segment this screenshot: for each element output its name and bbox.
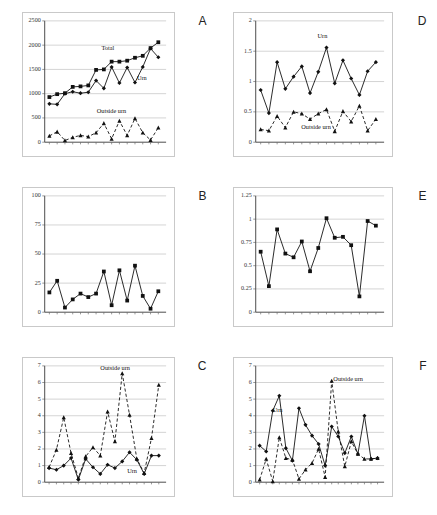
data-point-outside-urn-% — [86, 295, 90, 299]
data-point-ratio — [333, 236, 337, 240]
data-point-total — [118, 60, 122, 64]
data-point-outside-urn-% — [125, 299, 129, 303]
series-line-outside-urn — [260, 381, 378, 482]
series-annotation: Urn — [127, 467, 138, 474]
data-point-ratio — [259, 250, 263, 254]
panel-a-plot-area: 05001000150020002500TotalUrnOutside urn — [22, 12, 175, 157]
figure-six-panel-line-charts: 05001000150020002500TotalUrnOutside urn … — [0, 0, 437, 515]
panel-a: 05001000150020002500TotalUrnOutside urn … — [0, 0, 215, 175]
data-point-total — [156, 40, 160, 44]
data-point-total — [141, 54, 145, 58]
data-point-ratio — [374, 224, 378, 228]
y-tick-label: 6 — [249, 379, 252, 385]
y-tick-label: 1500 — [29, 66, 41, 72]
y-tick-label: 1000 — [29, 90, 41, 96]
data-point-urn — [362, 414, 366, 418]
y-tick-label: 0 — [249, 309, 252, 315]
data-point-urn — [323, 464, 327, 468]
data-point-outside-urn — [323, 475, 327, 479]
panel-c-plot-area: 01234567Outside urnUrn — [22, 357, 175, 497]
data-point-outside-urn-% — [63, 306, 67, 310]
data-point-outside-urn — [127, 413, 131, 417]
y-tick-label: 75 — [35, 221, 41, 227]
data-point-ratio — [283, 252, 287, 256]
panel-c-chart: 01234567Outside urnUrn — [23, 358, 174, 496]
series-annotation: Outside urn — [97, 107, 127, 114]
data-point-outside-urn — [258, 478, 262, 482]
panel-c-letter: C — [198, 359, 207, 373]
panel-e-plot-area: 00.250.50.7511.25 — [233, 187, 393, 327]
data-point-urn — [141, 65, 145, 69]
data-point-outside-urn — [157, 383, 161, 387]
y-tick-label: 25 — [35, 280, 41, 286]
panel-e: 00.250.50.7511.25 E — [215, 175, 437, 345]
data-point-outside-urn — [374, 117, 378, 121]
data-point-urn — [349, 434, 353, 438]
y-tick-label: 5 — [38, 396, 41, 402]
data-point-outside-urn — [149, 436, 153, 440]
data-point-total — [94, 68, 98, 72]
data-point-outside-urn — [310, 461, 314, 465]
data-point-outside-urn — [284, 456, 288, 460]
data-point-outside-urn — [102, 121, 106, 125]
data-point-urn — [78, 91, 82, 95]
panel-d-chart: 00.511.52UrnOutside urn — [234, 13, 392, 156]
data-point-outside-urn — [110, 137, 114, 141]
y-tick-label: 500 — [32, 114, 41, 120]
data-point-outside-urn — [156, 125, 160, 129]
data-point-outside-urn — [324, 107, 328, 111]
data-point-urn — [316, 70, 320, 74]
data-point-outside-urn — [71, 135, 75, 139]
data-point-urn — [343, 451, 347, 455]
data-point-total — [48, 95, 52, 99]
y-tick-label: 1 — [249, 462, 252, 468]
data-point-urn — [297, 406, 301, 410]
series-line-urn — [261, 48, 376, 114]
data-point-urn — [259, 88, 263, 92]
series-annotation: Urn — [318, 32, 329, 39]
data-point-outside-urn — [341, 109, 345, 113]
data-point-outside-urn — [125, 133, 129, 137]
y-tick-label: 0 — [38, 309, 41, 315]
data-point-urn — [157, 454, 161, 458]
y-tick-label: 2 — [249, 445, 252, 451]
panel-b-letter: B — [198, 189, 207, 203]
data-point-outside-urn — [271, 479, 275, 483]
data-point-ratio — [316, 246, 320, 250]
data-point-total — [125, 59, 129, 63]
data-point-outside-urn — [54, 448, 58, 452]
panel-d: 00.511.52UrnOutside urn D — [215, 0, 437, 175]
y-tick-label: 2000 — [29, 42, 41, 48]
y-tick-label: 5 — [249, 396, 252, 402]
data-point-outside-urn-% — [156, 289, 160, 293]
panel-a-chart: 05001000150020002500TotalUrnOutside urn — [23, 13, 174, 156]
data-point-ratio — [349, 243, 353, 247]
data-point-outside-urn-% — [102, 270, 106, 274]
data-point-outside-urn-% — [55, 279, 59, 283]
data-point-ratio — [300, 240, 304, 244]
y-tick-label: 0.5 — [244, 108, 252, 114]
y-tick-label: 3 — [249, 429, 252, 435]
data-point-ratio — [325, 216, 329, 220]
panel-e-chart: 00.250.50.7511.25 — [234, 188, 392, 326]
data-point-outside-urn — [141, 131, 145, 135]
data-point-ratio — [341, 235, 345, 239]
panel-a-letter: A — [198, 14, 207, 28]
data-point-urn — [275, 60, 279, 64]
data-point-urn — [277, 394, 281, 398]
data-point-ratio — [366, 219, 370, 223]
data-point-urn — [149, 454, 153, 458]
data-point-outside-urn-% — [141, 294, 145, 298]
series-annotation: Total — [101, 44, 114, 51]
data-point-total — [110, 60, 114, 64]
y-tick-label: 0 — [38, 479, 41, 485]
data-point-urn — [341, 58, 345, 62]
data-point-urn — [133, 80, 137, 84]
data-point-total — [79, 85, 83, 89]
data-point-outside-urn — [277, 435, 281, 439]
data-point-outside-urn — [308, 117, 312, 121]
data-point-total — [102, 68, 106, 72]
y-tick-label: 0.75 — [241, 239, 252, 245]
panel-grid: 05001000150020002500TotalUrnOutside urn … — [0, 0, 437, 515]
data-point-outside-urn — [106, 409, 110, 413]
